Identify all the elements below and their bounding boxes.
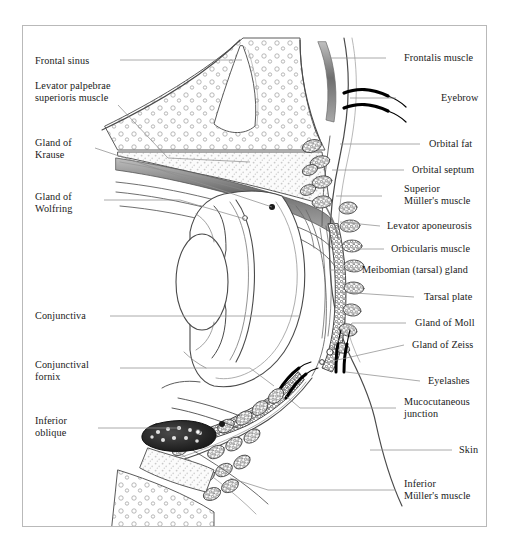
label-frontalis-muscle: Frontalis muscle	[404, 52, 473, 64]
label-frontal-sinus: Frontal sinus	[35, 55, 89, 67]
label-orbital-septum: Orbital septum	[412, 164, 474, 176]
label-tarsal-plate: Tarsal plate	[424, 291, 472, 303]
label-eyebrow: Eyebrow	[441, 92, 478, 104]
label-orbital-fat: Orbital fat	[429, 138, 472, 150]
label-gland-of-moll: Gland of Moll	[415, 317, 475, 329]
label-skin: Skin	[459, 444, 478, 456]
label-levator-aponeurosis: Levator aponeurosis	[387, 220, 472, 232]
label-mucocutaneous-junction: Mucocutaneous junction	[404, 396, 470, 419]
label-gland-of-krause: Gland of Krause	[35, 137, 72, 160]
label-inferior-oblique: Inferior oblique	[35, 415, 67, 438]
label-gland-of-wolfring: Gland of Wolfring	[35, 191, 72, 214]
label-gland-of-zeiss: Gland of Zeiss	[412, 339, 473, 351]
label-orbicularis-muscle: Orbicularis muscle	[391, 243, 470, 255]
label-conjunctival-fornix: Conjunctival fornix	[35, 359, 89, 382]
label-superior-mullers-muscle: Superior Müller's muscle	[404, 183, 470, 206]
label-eyelashes: Eyelashes	[428, 375, 470, 387]
label-meibomian-tarsal-gland: Meibomian (tarsal) gland	[362, 264, 468, 276]
label-inferior-mullers-muscle: Inferior Müller's muscle	[404, 478, 470, 501]
anatomical-figure: Frontal sinus Levator palpebrae superior…	[0, 0, 510, 558]
label-conjunctiva: Conjunctiva	[35, 310, 86, 322]
label-levator-palpebrae: Levator palpebrae superioris muscle	[35, 80, 111, 103]
